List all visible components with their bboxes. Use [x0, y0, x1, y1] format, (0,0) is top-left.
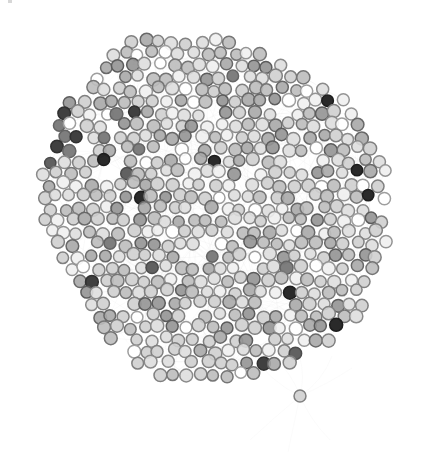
graph-node[interactable] — [135, 237, 147, 249]
graph-node[interactable] — [300, 202, 313, 215]
graph-node[interactable] — [127, 176, 140, 189]
graph-node[interactable] — [131, 311, 143, 323]
graph-node[interactable] — [126, 273, 139, 286]
graph-node[interactable] — [342, 224, 355, 237]
graph-node[interactable] — [284, 167, 295, 178]
graph-node[interactable] — [220, 106, 232, 118]
graph-node[interactable] — [247, 367, 259, 379]
graph-node[interactable] — [93, 264, 105, 276]
graph-node[interactable] — [283, 212, 294, 223]
graph-node[interactable] — [237, 343, 249, 355]
graph-node[interactable] — [282, 117, 294, 129]
graph-node[interactable] — [343, 298, 355, 310]
graph-node[interactable] — [309, 188, 321, 200]
graph-node[interactable] — [233, 106, 245, 118]
graph-node[interactable] — [229, 190, 241, 202]
graph-node[interactable] — [253, 48, 266, 61]
graph-node[interactable] — [310, 259, 322, 271]
graph-node[interactable] — [351, 165, 362, 176]
graph-node[interactable] — [244, 212, 256, 224]
graph-node[interactable] — [152, 81, 164, 93]
graph-node[interactable] — [70, 131, 82, 143]
graph-node[interactable] — [325, 237, 336, 248]
graph-node[interactable] — [39, 214, 51, 226]
graph-node[interactable] — [66, 240, 79, 253]
graph-node[interactable] — [139, 249, 150, 260]
graph-node[interactable] — [337, 94, 349, 106]
graph-node[interactable] — [284, 309, 296, 321]
graph-node[interactable] — [179, 225, 191, 237]
graph-node[interactable] — [236, 60, 248, 72]
graph-node[interactable] — [133, 144, 144, 155]
graph-node[interactable] — [372, 180, 384, 192]
graph-node[interactable] — [234, 271, 246, 283]
graph-node[interactable] — [289, 322, 302, 335]
graph-node[interactable] — [380, 165, 392, 177]
graph-node[interactable] — [175, 238, 186, 249]
graph-node[interactable] — [363, 189, 374, 200]
graph-node[interactable] — [246, 153, 259, 166]
graph-node[interactable] — [262, 344, 275, 357]
graph-node[interactable] — [132, 70, 143, 81]
graph-node[interactable] — [122, 141, 134, 153]
graph-node[interactable] — [282, 94, 295, 107]
graph-node[interactable] — [220, 58, 232, 70]
graph-node[interactable] — [268, 211, 281, 224]
graph-node[interactable] — [285, 71, 297, 83]
graph-node[interactable] — [98, 83, 110, 95]
graph-node[interactable] — [90, 287, 102, 299]
graph-node[interactable] — [215, 238, 227, 250]
graph-node[interactable] — [327, 105, 340, 118]
graph-node[interactable] — [140, 321, 152, 333]
graph-node[interactable] — [207, 370, 218, 381]
graph-node[interactable] — [77, 260, 89, 272]
graph-node[interactable] — [37, 168, 50, 181]
graph-node[interactable] — [51, 235, 64, 248]
graph-node[interactable] — [166, 225, 179, 238]
graph-node[interactable] — [243, 308, 255, 320]
graph-node[interactable] — [235, 318, 248, 331]
graph-node[interactable] — [311, 214, 323, 226]
graph-node[interactable] — [193, 179, 204, 190]
graph-node[interactable] — [212, 165, 225, 178]
graph-node[interactable] — [179, 130, 191, 142]
graph-node[interactable] — [248, 321, 261, 334]
graph-node[interactable] — [236, 296, 248, 308]
graph-node[interactable] — [322, 334, 335, 347]
graph-node[interactable] — [105, 95, 117, 107]
graph-node[interactable] — [84, 226, 96, 238]
graph-node[interactable] — [179, 297, 191, 309]
graph-node[interactable] — [269, 93, 280, 104]
graph-node[interactable] — [179, 201, 191, 213]
graph-node[interactable] — [208, 86, 220, 98]
graph-node[interactable] — [364, 165, 377, 178]
graph-node[interactable] — [120, 71, 132, 83]
graph-node[interactable] — [130, 117, 143, 130]
graph-node[interactable] — [146, 46, 158, 58]
graph-node[interactable] — [283, 144, 296, 157]
graph-node[interactable] — [319, 129, 330, 140]
graph-node[interactable] — [180, 369, 193, 382]
graph-node[interactable] — [195, 368, 207, 380]
graph-node[interactable] — [294, 259, 307, 272]
graph-node[interactable] — [86, 299, 98, 311]
graph-node[interactable] — [262, 274, 275, 287]
graph-node[interactable] — [108, 285, 120, 297]
graph-node[interactable] — [296, 118, 307, 129]
graph-node[interactable] — [147, 141, 159, 153]
graph-node[interactable] — [161, 283, 174, 296]
graph-node[interactable] — [147, 308, 159, 320]
graph-node[interactable] — [319, 201, 331, 213]
graph-node[interactable] — [80, 119, 93, 132]
graph-node[interactable] — [330, 318, 343, 331]
graph-node[interactable] — [209, 295, 221, 307]
graph-node[interactable] — [246, 178, 259, 191]
graph-node[interactable] — [296, 286, 308, 298]
graph-node[interactable] — [98, 153, 110, 165]
graph-node[interactable] — [351, 259, 363, 271]
graph-node[interactable] — [202, 48, 214, 60]
graph-node[interactable] — [202, 354, 215, 367]
graph-node[interactable] — [309, 236, 322, 249]
graph-node[interactable] — [161, 118, 172, 129]
graph-node[interactable] — [166, 320, 178, 332]
